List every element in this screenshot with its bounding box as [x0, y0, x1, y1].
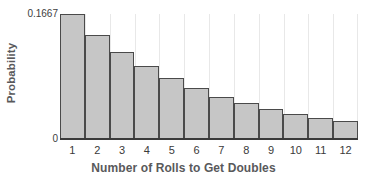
x-tick-label-11: 11: [308, 143, 333, 159]
x-tick-label-3: 3: [110, 143, 135, 159]
x-tick-label-10: 10: [283, 143, 308, 159]
x-axis-title: Number of Rolls to Get Doubles: [0, 161, 367, 175]
x-tick-label-9: 9: [259, 143, 284, 159]
bar-8: [234, 103, 259, 138]
bar-5: [159, 78, 184, 138]
x-tick-label-12: 12: [333, 143, 358, 159]
bar-6: [184, 88, 209, 138]
plot-area: [60, 14, 358, 140]
bar-12: [333, 121, 358, 138]
bar-1: [60, 14, 85, 138]
x-tick-label-5: 5: [159, 143, 184, 159]
y-axis-ticks: 0.1667 0: [16, 0, 58, 145]
x-tick-label-8: 8: [234, 143, 259, 159]
y-tick-label-max: 0.1667: [18, 9, 58, 19]
x-tick-label-4: 4: [134, 143, 159, 159]
bar-10: [283, 114, 308, 138]
x-tick-label-7: 7: [209, 143, 234, 159]
probability-histogram: Probability 0.1667 0 123456789101112 Num…: [0, 0, 367, 184]
bar-series: [60, 14, 358, 138]
x-tick-label-2: 2: [85, 143, 110, 159]
x-tick-label-1: 1: [60, 143, 85, 159]
bar-4: [134, 66, 159, 138]
bar-3: [110, 52, 135, 138]
bar-9: [259, 109, 284, 138]
bar-7: [209, 97, 234, 139]
bar-11: [308, 118, 333, 138]
bar-2: [85, 35, 110, 138]
x-tick-label-6: 6: [184, 143, 209, 159]
x-axis-ticks: 123456789101112: [60, 143, 358, 159]
y-tick-label-zero: 0: [18, 134, 58, 144]
